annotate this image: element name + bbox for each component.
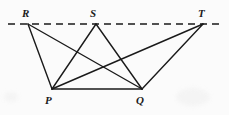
segment-TQ: [142, 24, 203, 89]
vertex-label-R: R: [22, 8, 29, 19]
vertex-label-Q: Q: [136, 95, 144, 106]
segment-RP: [28, 24, 52, 89]
geometry-figure: R S T P Q: [0, 0, 229, 115]
segment-SQ: [96, 24, 142, 89]
segment-RQ: [28, 24, 142, 89]
vertex-label-T: T: [198, 8, 205, 19]
figure-canvas: [0, 0, 229, 115]
vertex-label-P: P: [45, 95, 52, 106]
vertex-label-S: S: [90, 8, 96, 19]
